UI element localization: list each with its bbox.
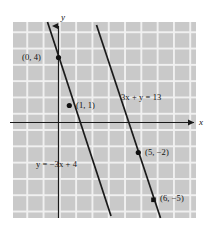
line-y-equals-neg3x-plus-4	[48, 22, 112, 216]
label-equation-y-neg3x-plus-4: y = −3x + 4	[36, 160, 77, 169]
point-6-neg5	[151, 198, 156, 203]
point-5-neg2	[136, 150, 141, 155]
label-equation-3x-plus-y-13: 3x + y = 13	[121, 93, 161, 102]
graph-figure: y x (0, 4) (1, 1) y = −3x + 4 3x + y = 1…	[0, 0, 214, 228]
label-point-5-neg2: (5, −2)	[145, 148, 169, 157]
label-point-1-1: (1, 1)	[76, 101, 95, 110]
x-axis-label: x	[199, 118, 203, 127]
label-point-6-neg5: (6, −5)	[160, 194, 184, 203]
y-axis-label: y	[61, 13, 65, 22]
point-1-1	[67, 103, 72, 108]
label-point-0-4: (0, 4)	[22, 53, 41, 62]
line-3x-plus-y-equals-13	[97, 25, 161, 218]
point-0-4	[56, 55, 61, 60]
